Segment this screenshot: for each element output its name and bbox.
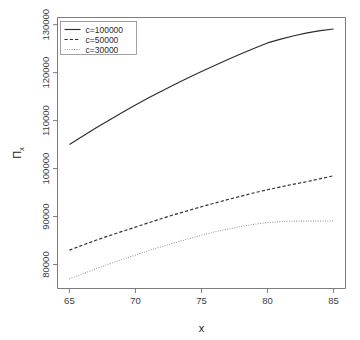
series-line-c-30000 [69,221,333,279]
x-tick-label: 70 [130,295,141,306]
legend-label-c-50000: c=50000 [86,35,119,45]
x-tick-label: 80 [262,295,273,306]
y-tick-label: 130000 [41,9,52,41]
y-tick-label: 90000 [41,203,52,229]
y-tick-label: 120000 [41,57,52,89]
x-tick-label: 65 [64,295,75,306]
legend-label-c-30000: c=30000 [86,45,119,55]
plot-border [58,18,346,289]
series-line-c-50000 [69,176,333,250]
y-tick-label: 80000 [41,251,52,277]
chart-container: 6570758085 80000900001000001100001200001… [0,0,360,340]
legend-label-c-100000: c=100000 [86,25,124,35]
y-axis-ticks: 8000090000100000110000120000130000 [41,9,58,278]
y-tick-label: 100000 [41,153,52,185]
x-tick-label: 75 [196,295,207,306]
x-axis-ticks: 6570758085 [64,289,339,306]
x-axis-title: x [199,322,205,334]
y-axis-title: Πx [11,147,26,159]
plot-frame [58,18,346,289]
line-chart-plot: 6570758085 80000900001000001100001200001… [0,0,360,340]
y-tick-label: 110000 [41,105,52,136]
chart-legend: c=100000c=50000c=30000 [61,22,137,55]
x-tick-label: 85 [328,295,339,306]
data-series-group [69,29,333,279]
